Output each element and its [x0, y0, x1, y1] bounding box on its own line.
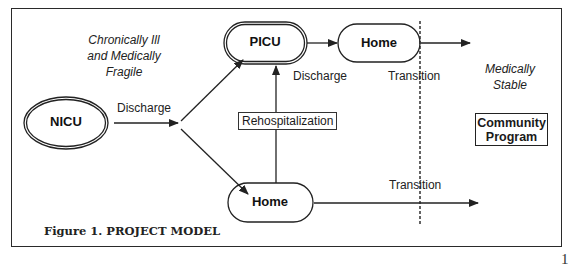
- home-top-label: Home: [349, 35, 409, 50]
- chronically-ill-line2: and Medically: [80, 49, 168, 64]
- community-program-node: Community Program: [475, 113, 548, 146]
- home-bottom-label: Home: [240, 194, 300, 209]
- figure-caption: Figure 1. PROJECT MODEL: [44, 224, 220, 238]
- rehospitalization-label: Rehospitalization: [238, 112, 337, 130]
- chronically-ill-annotation: Chronically Ill and Medically Fragile: [80, 33, 168, 80]
- medically-stable-annotation: Medically Stable: [480, 62, 540, 93]
- medically-stable-line1: Medically: [480, 62, 540, 77]
- picu-discharge-label: Discharge: [293, 69, 347, 84]
- community-program-line1: Community: [476, 116, 547, 130]
- transition-bottom-label: Transition: [389, 178, 441, 193]
- junction-to-picu-arrow: [181, 60, 243, 121]
- medically-stable-line2: Stable: [480, 78, 540, 93]
- chronically-ill-line3: Fragile: [80, 65, 168, 80]
- chronically-ill-line1: Chronically Ill: [80, 33, 168, 48]
- transition-top-label: Transition: [388, 69, 440, 84]
- nicu-discharge-label: Discharge: [117, 101, 171, 116]
- page-number: 1: [561, 251, 569, 267]
- picu-label: PICU: [235, 34, 295, 49]
- nicu-label: NICU: [36, 114, 96, 129]
- community-program-line2: Program: [476, 130, 547, 144]
- junction-to-home-arrow: [181, 129, 248, 194]
